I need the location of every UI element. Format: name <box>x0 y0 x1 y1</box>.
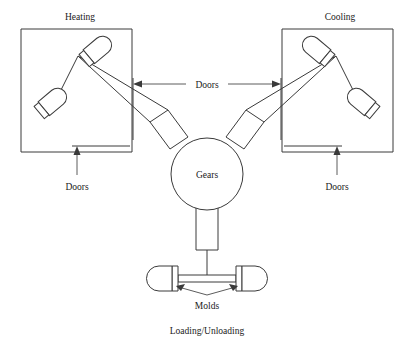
rotary-molding-machine-diagram: Gears <box>0 0 414 342</box>
cooling-title: Cooling <box>325 12 356 22</box>
loading-mold-right <box>236 266 268 291</box>
heating-mold-assembly <box>33 32 168 122</box>
gears-hub-group: Gears <box>150 110 264 250</box>
doors-top-arrowhead-left <box>133 81 142 88</box>
loading-mold-right-neck <box>236 266 242 291</box>
diagram-canvas: Gears <box>0 0 414 342</box>
loading-unloading-caption: Loading/Unloading <box>170 326 245 336</box>
heating-title: Heating <box>65 12 95 22</box>
doors-top-arrowhead-right <box>272 81 281 88</box>
doors-left-arrowhead <box>74 146 81 155</box>
loading-mold-left <box>146 266 178 291</box>
cooling-branch-rod <box>336 56 354 92</box>
cooling-mold-lower <box>344 84 381 119</box>
heating-mold-upper <box>78 32 115 67</box>
doors-top-annotation: Doors <box>133 80 281 90</box>
loading-mold-left-neck <box>172 266 178 291</box>
molds-arrow-line-right <box>207 288 232 295</box>
doors-top-label: Doors <box>195 80 219 90</box>
gear-arm-lower <box>196 205 218 250</box>
doors-left-annotation: Doors <box>65 146 89 192</box>
cooling-mold-assembly <box>246 32 381 122</box>
heating-branch-rod <box>60 56 78 92</box>
loading-mold-bar <box>178 275 236 282</box>
gear-arm-upper-left <box>150 110 188 149</box>
doors-left-label: Doors <box>65 182 89 192</box>
molds-arrow-line-left <box>182 288 207 295</box>
loading-mold-left-body <box>146 266 172 291</box>
loading-mold-right-body <box>242 266 268 291</box>
cooling-mold-upper <box>299 32 336 67</box>
doors-right-label: Doors <box>325 182 349 192</box>
molds-label: Molds <box>195 301 220 311</box>
gear-arm-upper-right <box>226 110 264 149</box>
doors-right-annotation: Doors <box>325 146 349 192</box>
molds-annotation: Molds <box>176 284 238 311</box>
doors-right-arrowhead <box>334 146 341 155</box>
heating-mold-lower <box>33 84 70 119</box>
gears-label: Gears <box>196 170 218 180</box>
